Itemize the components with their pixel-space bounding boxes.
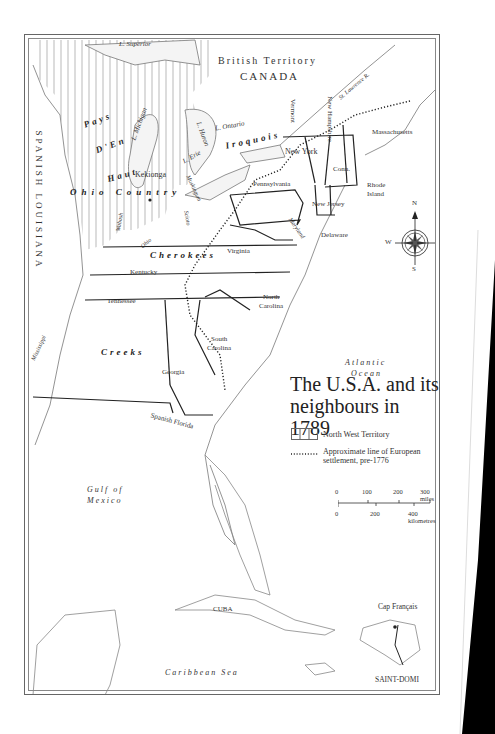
scale-miles-100: 100 [362,488,372,495]
label-caribbean-sea: Caribbean Sea [165,668,239,677]
label-delaware: Delaware [321,231,348,239]
compass-e: E [439,238,440,246]
legend-item-northwest-territory: North West Territory [291,428,390,440]
legend-label-settlement-1: Approximate line of European [323,447,421,456]
legend-item-settlement-line: Approximate line of European settlement,… [291,447,421,465]
label-vermont: Vermont [289,99,297,123]
label-pennsylvania: Pennsylvania [253,180,290,188]
label-new-york: New York [285,147,317,156]
scale-km-0: 0 [335,510,338,517]
scale-km-200: 200 [370,510,380,517]
label-lake-superior: L. Superior [119,40,151,48]
label-gulf-of: Gulf of [87,485,123,494]
label-north: North [263,293,279,301]
label-north-carolina: Carolina [259,302,283,310]
label-kentucky: Kentucky [130,268,157,276]
label-conn: Conn. [333,165,350,173]
scale-km-400: 400 kilometres [408,510,440,524]
label-spanish-louisiana: SPANISH LOUISIANA [34,131,44,270]
label-new-jersey: New Jersey [312,200,344,208]
book-page: L. Superior British Territory CANADA St.… [0,0,495,734]
label-mexico: Mexico [87,496,123,505]
label-new-hampshire: New Hampshire [326,96,334,142]
label-canada: CANADA [240,70,299,82]
label-atlantic: Atlantic [345,358,386,367]
label-saint-domingue: SAINT-DOMI [375,675,419,684]
label-virginia: Virginia [227,247,250,255]
label-cherokees: Cherokees [150,250,216,260]
compass-icon [393,203,437,273]
label-cap-francais: Cap Français [378,602,417,611]
label-south: South [211,335,227,343]
legend-label-northwest-territory: North West Territory [323,430,390,439]
label-georgia: Georgia [162,368,184,376]
label-massachusetts: Massachusetts [372,128,412,136]
map-title-line1: The U.S.A. and its [290,373,439,395]
compass-rose: N S W E [393,203,437,273]
compass-n: N [412,199,417,207]
legend-label-settlement-2: settlement, pre-1776 [323,456,421,465]
label-kekionga: Kekionga [135,170,166,179]
scale-miles-0: 0 [335,488,338,495]
label-british-territory: British Territory [218,55,317,66]
scale-miles-200: 200 [393,488,403,495]
label-island: Island [367,190,384,198]
label-south-carolina: Carolina [207,344,231,352]
label-tennessee: Tennessee [107,297,136,305]
compass-w: W [385,238,392,246]
label-rhode: Rhode [367,181,385,189]
map-frame: L. Superior British Territory CANADA St.… [24,34,440,695]
label-ohio-country: Ohio Country [70,187,181,197]
scale-bar: 0 100 200 300 miles 0 200 400 kilometres [335,488,440,520]
compass-s: S [412,265,416,273]
scale-miles-300: 300 miles [420,488,440,502]
dotted-line-icon [291,449,319,459]
label-creeks: Creeks [101,347,145,357]
label-cuba: CUBA [213,605,232,613]
hatched-box-icon [291,428,318,440]
